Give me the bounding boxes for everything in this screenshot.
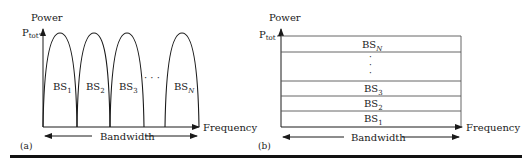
- band-label-bsn: BSN: [362, 39, 383, 53]
- band-label-bs2: BS2: [364, 98, 383, 112]
- lobe-bs1: [43, 33, 77, 127]
- lobe-label-bs1: BS1: [53, 81, 72, 95]
- lobe-bs2: [77, 33, 110, 127]
- band-label-bs1: BS1: [364, 113, 383, 127]
- lobe-label-bsn: BSN: [174, 81, 195, 95]
- panel-b: Power Ptot BSN · · · BS3 BS2 BS1 Frequen…: [258, 12, 520, 151]
- lobe-label-bs2: BS2: [86, 81, 105, 95]
- ptot-label-b: Ptot: [259, 29, 276, 42]
- panel-tag-a: (a): [20, 141, 32, 151]
- x-axis-label-b: Frequency: [466, 122, 520, 133]
- ptot-label-a: Ptot: [22, 27, 39, 40]
- panel-a: Power Ptot BS1 BS2 BS3 BSN · · · Frequen…: [20, 12, 257, 151]
- lobe-bs3: [110, 33, 144, 127]
- vertical-ellipsis-3: ·: [369, 68, 372, 78]
- bandwidth-label-b: Bandwidth: [351, 132, 406, 143]
- band-label-bs3: BS3: [364, 83, 383, 97]
- bottom-rule: [10, 155, 522, 158]
- panel-tag-b: (b): [258, 141, 271, 151]
- ellipsis-a: · · ·: [144, 72, 160, 83]
- lobe-bsn: [165, 33, 199, 127]
- diagram-canvas: Power Ptot BS1 BS2 BS3 BSN · · · Frequen…: [0, 0, 531, 166]
- x-axis-label-a: Frequency: [203, 122, 257, 133]
- lobe-label-bs3: BS3: [119, 81, 138, 95]
- bandwidth-label-a: Bandwidth: [100, 131, 155, 142]
- y-axis-label-b: Power: [269, 12, 301, 23]
- y-axis-label-a: Power: [31, 12, 63, 23]
